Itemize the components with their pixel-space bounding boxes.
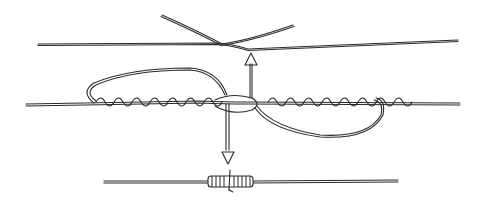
arrow-up-icon — [245, 53, 257, 98]
step-2-wraps — [26, 68, 460, 150]
arrow-down-icon — [222, 152, 234, 164]
step-3-finished-knot — [104, 170, 398, 192]
knot-diagram — [0, 0, 483, 206]
step-1-overlap — [38, 15, 458, 51]
